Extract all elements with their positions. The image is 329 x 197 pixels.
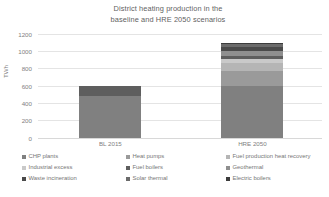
y-tick-label-200: 200 [22,117,32,124]
legend-swatch-icon [22,177,26,181]
y-tick-label-400: 400 [22,99,32,106]
bar-segment-chp-plants[interactable] [221,86,283,138]
bar-segment-heat-pumps[interactable] [221,71,283,86]
legend-label: Heat pumps [133,153,165,160]
legend-swatch-icon [226,155,230,159]
bar-segment-electric-boilers[interactable] [221,43,283,44]
x-tick-label-bl-2015: BL 2015 [99,140,122,147]
chart-legend: CHP plantsHeat pumpsFuel production heat… [22,153,322,187]
legend-item-electric-boilers[interactable]: Electric boilers [226,175,271,182]
legend-item-fuel-boilers[interactable]: Fuel boilers [126,164,163,171]
bar-segment-geothermal[interactable] [221,51,283,56]
legend-item-industrial-excess[interactable]: Industrial excess [22,164,72,171]
y-tick-label-1200: 1200 [18,30,32,37]
legend-item-geothermal[interactable]: Geothermal [226,164,263,171]
legend-swatch-icon [226,166,230,170]
legend-label: Waste incineration [29,175,77,182]
chart-title-line-2: baseline and HRE 2050 scenarios [62,15,274,26]
bar-segment-solar-thermal[interactable] [221,44,283,47]
legend-swatch-icon [22,155,26,159]
bar-segment-chp-plants[interactable] [79,96,141,138]
bar-segment-fuel-boilers[interactable] [221,56,283,59]
plot-area [38,34,322,138]
y-tick-label-0: 0 [29,134,32,141]
gridline-0 [38,138,322,139]
bar-segment-waste-incineration[interactable] [221,47,283,51]
legend-label: Fuel boilers [133,164,163,171]
bar-hre-2050[interactable] [221,43,283,137]
legend-swatch-icon [126,177,130,181]
x-axis-tick-labels: BL 2015HRE 2050 [38,140,322,150]
legend-item-heat-pumps[interactable]: Heat pumps [126,153,164,160]
legend-swatch-icon [126,155,130,159]
bar-segment-industrial-excess[interactable] [221,59,283,62]
y-tick-label-800: 800 [22,65,32,72]
legend-swatch-icon [126,166,130,170]
bar-segment-fuel-boilers[interactable] [79,86,141,96]
gridline-1200 [38,34,322,35]
y-axis-tick-labels: 020040060080010001200 [0,34,34,138]
bar-segment-fuel-production-heat-recovery[interactable] [221,63,283,71]
legend-swatch-icon [22,166,26,170]
legend-label: Electric boilers [233,175,271,182]
legend-label: CHP plants [29,153,59,160]
legend-item-chp-plants[interactable]: CHP plants [22,153,58,160]
x-tick-label-hre-2050: HRE 2050 [238,140,267,147]
legend-item-waste-incineration[interactable]: Waste incineration [22,175,77,182]
legend-item-solar-thermal[interactable]: Solar thermal [126,175,168,182]
y-tick-label-1000: 1000 [18,47,32,54]
legend-label: Geothermal [233,164,264,171]
bar-bl-2015[interactable] [79,86,141,138]
legend-label: Solar thermal [133,175,168,182]
legend-label: Fuel production heat recovery [233,153,311,160]
legend-item-fuel-production-heat-recovery[interactable]: Fuel production heat recovery [226,153,310,160]
legend-label: Industrial excess [29,164,73,171]
legend-swatch-icon [226,177,230,181]
y-tick-label-600: 600 [22,82,32,89]
chart-title: District heating production in the basel… [62,4,274,25]
chart-container: District heating production in the basel… [0,0,329,197]
chart-title-line-1: District heating production in the [62,4,274,15]
